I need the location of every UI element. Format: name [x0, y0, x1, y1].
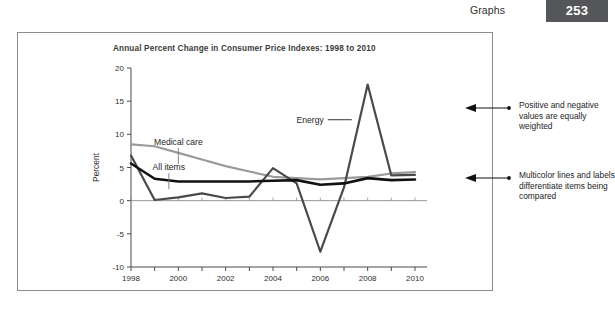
x-tick-label: 2010 [406, 274, 424, 283]
x-tick-label: 2000 [169, 274, 187, 283]
x-tick-label: 2004 [264, 274, 282, 283]
y-tick-label: -10 [112, 263, 124, 272]
x-tick-label: 2008 [359, 274, 377, 283]
callout-text-0: Positive and negative values are equally… [519, 100, 615, 132]
y-tick-label: -5 [117, 230, 125, 239]
series-label-energy: Energy [297, 115, 325, 125]
callout-text-1: Multicolor lines and labels differentiat… [519, 170, 615, 202]
section-label: Graphs [470, 4, 505, 16]
callout-arrow-1 [465, 172, 513, 184]
line-chart: 20151050-5-10Percent19982000200220042006… [17, 32, 493, 291]
y-tick-label: 20 [115, 64, 124, 73]
x-tick-label: 1998 [122, 274, 140, 283]
series-label-all-items: All items [153, 162, 185, 172]
page-number: 253 [546, 0, 608, 22]
page-header: Graphs 253 [0, 0, 615, 26]
x-tick-label: 2006 [311, 274, 329, 283]
page-number-badge: 253 [546, 0, 608, 22]
x-tick-label: 2002 [217, 274, 235, 283]
series-label-medical-care: Medical care [154, 137, 203, 147]
y-tick-label: 15 [115, 97, 124, 106]
callout-arrow-0 [465, 102, 513, 114]
y-tick-label: 0 [120, 197, 125, 206]
y-tick-label: 10 [115, 130, 124, 139]
y-axis-title: Percent [91, 152, 101, 182]
y-tick-label: 5 [120, 164, 125, 173]
